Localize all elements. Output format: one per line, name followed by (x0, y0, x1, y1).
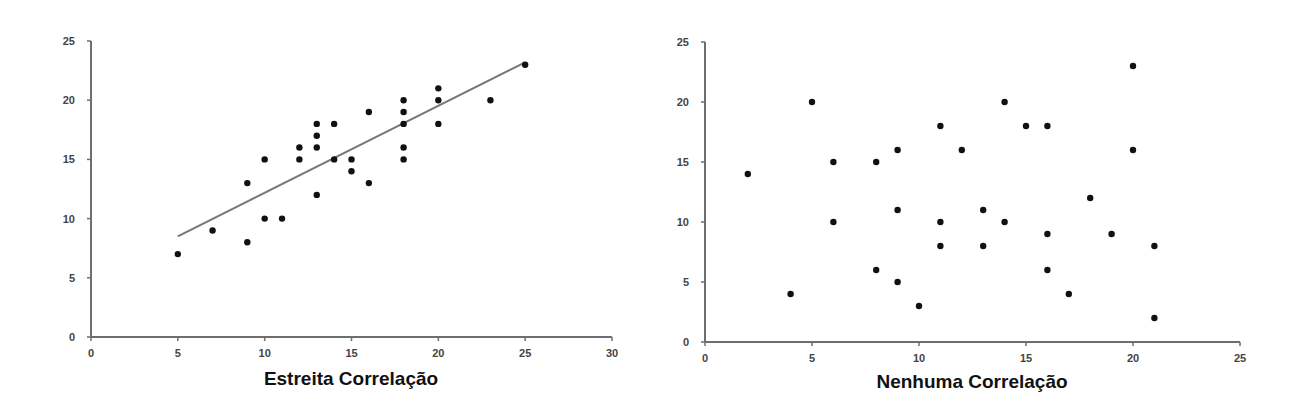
data-point (980, 243, 986, 249)
y-tick-label: 5 (683, 276, 689, 288)
data-point (894, 147, 900, 153)
charts-canvas: 0510152025300510152025Estreita Correlaçã… (0, 0, 1300, 420)
data-point (1001, 99, 1007, 105)
y-tick-label: 15 (63, 153, 75, 165)
y-tick-label: 10 (63, 213, 75, 225)
data-point (1044, 231, 1050, 237)
data-point (1044, 123, 1050, 129)
y-tick-label: 15 (677, 156, 689, 168)
data-point (873, 267, 879, 273)
data-point (279, 215, 285, 221)
data-point (314, 133, 320, 139)
data-point (980, 207, 986, 213)
x-tick-label: 5 (809, 352, 815, 364)
data-point (366, 180, 372, 186)
y-tick-label: 25 (63, 35, 75, 47)
data-point (209, 227, 215, 233)
data-point (959, 147, 965, 153)
data-point (1151, 243, 1157, 249)
data-point (435, 97, 441, 103)
trend-line (178, 62, 525, 236)
data-point (366, 109, 372, 115)
data-point (331, 156, 337, 162)
data-point (331, 121, 337, 127)
x-tick-label: 30 (606, 347, 618, 359)
data-point (937, 219, 943, 225)
data-point (1066, 291, 1072, 297)
data-point (873, 159, 879, 165)
x-tick-label: 10 (259, 347, 271, 359)
x-tick-label: 20 (432, 347, 444, 359)
data-point (937, 243, 943, 249)
y-tick-label: 20 (63, 94, 75, 106)
data-point (261, 215, 267, 221)
data-point (400, 121, 406, 127)
data-point (809, 99, 815, 105)
data-point (1151, 315, 1157, 321)
chart-nenhuma-correlacao: 05101520250510152025Nenhuma Correlação (677, 36, 1246, 392)
data-point (787, 291, 793, 297)
x-tick-label: 15 (1020, 352, 1032, 364)
x-tick-label: 0 (702, 352, 708, 364)
data-point (400, 156, 406, 162)
data-point (522, 61, 528, 67)
data-point (937, 123, 943, 129)
data-point (1108, 231, 1114, 237)
data-point (894, 207, 900, 213)
chart-title: Nenhuma Correlação (876, 371, 1067, 392)
x-tick-label: 15 (345, 347, 357, 359)
data-point (435, 121, 441, 127)
data-point (296, 156, 302, 162)
data-point (244, 239, 250, 245)
x-tick-label: 25 (519, 347, 531, 359)
y-tick-label: 10 (677, 216, 689, 228)
chart-estreita-correlacao: 0510152025300510152025Estreita Correlaçã… (63, 35, 618, 389)
x-tick-label: 25 (1234, 352, 1246, 364)
x-tick-label: 0 (88, 347, 94, 359)
y-tick-label: 20 (677, 96, 689, 108)
x-tick-label: 20 (1127, 352, 1139, 364)
data-point (1087, 195, 1093, 201)
data-point (400, 144, 406, 150)
data-point (314, 192, 320, 198)
y-tick-label: 0 (683, 336, 689, 348)
data-point (487, 97, 493, 103)
data-point (1130, 147, 1136, 153)
data-point (314, 144, 320, 150)
data-point (830, 159, 836, 165)
data-point (1001, 219, 1007, 225)
y-tick-label: 25 (677, 36, 689, 48)
data-point (314, 121, 320, 127)
data-point (916, 303, 922, 309)
data-point (1130, 63, 1136, 69)
data-point (1023, 123, 1029, 129)
data-point (261, 156, 267, 162)
y-tick-label: 0 (69, 331, 75, 343)
data-point (348, 156, 354, 162)
data-point (244, 180, 250, 186)
data-point (745, 171, 751, 177)
data-point (296, 144, 302, 150)
x-tick-label: 10 (913, 352, 925, 364)
x-tick-label: 5 (175, 347, 181, 359)
data-point (830, 219, 836, 225)
data-point (400, 97, 406, 103)
data-point (348, 168, 354, 174)
data-point (435, 85, 441, 91)
data-point (400, 109, 406, 115)
data-point (894, 279, 900, 285)
y-tick-label: 5 (69, 272, 75, 284)
data-point (1044, 267, 1050, 273)
data-point (175, 251, 181, 257)
chart-title: Estreita Correlação (264, 368, 438, 389)
